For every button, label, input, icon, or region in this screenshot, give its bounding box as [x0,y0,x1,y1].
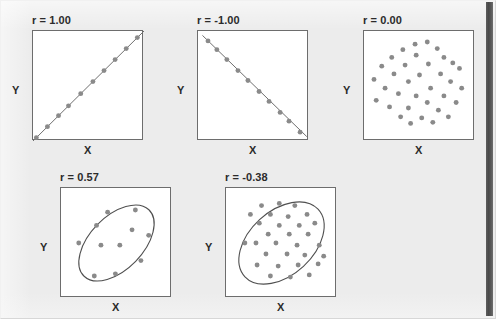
data-point [417,73,422,78]
data-point [264,252,269,257]
data-point [419,115,424,120]
data-point [246,78,251,83]
data-point [268,212,273,217]
data-point [430,120,435,125]
plot-area [197,30,308,140]
data-point [206,38,211,43]
data-point [277,223,282,228]
data-point [94,223,99,228]
data-point [302,253,307,258]
data-point [383,86,388,91]
x-axis-label: X [112,301,119,313]
data-point [396,91,401,96]
data-point [248,212,253,217]
data-point [56,113,61,118]
data-point [268,274,273,279]
data-point [316,261,321,266]
data-point [278,110,283,115]
x-axis-label: X [415,144,422,156]
plot-area [32,30,143,140]
panel-title: r = 0.57 [60,171,99,183]
data-point [408,121,413,126]
data-point [92,274,97,279]
data-point [292,203,297,208]
data-point [454,100,459,105]
data-point [374,98,379,103]
data-point [403,63,408,68]
data-point [254,241,259,246]
data-point [257,89,262,94]
panel-r-minus-1-00: r = -1.00 Y X [197,14,322,159]
x-axis-label: X [249,144,256,156]
data-point [90,79,95,84]
panel-title: r = 1.00 [32,14,71,26]
data-point [99,243,104,248]
panel-r-1-00: r = 1.00 Y X [32,14,157,159]
data-point [446,114,451,119]
data-point [236,68,241,73]
data-point [435,46,440,51]
data-point [457,66,462,71]
correlation-figure: r = 1.00 Y X r = -1.00 Y X r = 0.00 Y X … [0,0,496,319]
panel-r-minus-0-38: r = -0.38 Y X [225,171,350,316]
data-point [425,40,430,45]
plot-area [225,187,336,297]
data-point [406,79,411,84]
scatter-canvas-r-1-00 [33,31,144,141]
scatter-canvas-r-0-57 [61,188,172,298]
data-point [296,263,301,268]
data-point [287,232,292,237]
data-point [124,46,129,51]
data-point [450,60,455,65]
plot-area [60,187,171,297]
panel-r-0-57: r = 0.57 Y X [60,171,185,316]
data-point [286,214,291,219]
data-point [400,47,405,52]
data-point [276,264,281,269]
data-point [441,93,446,98]
data-point [459,86,464,91]
data-point [448,79,453,84]
panel-title: r = 0.00 [363,14,402,26]
data-point [428,86,433,91]
data-point [297,223,302,228]
panel-title: r = -1.00 [197,14,240,26]
data-point [138,258,143,263]
y-axis-label: Y [177,84,184,96]
data-point [306,232,311,237]
data-point [425,100,430,105]
data-point [255,263,260,268]
data-point [130,227,135,232]
data-point [214,47,219,52]
data-point [224,57,229,62]
data-point [34,135,39,140]
y-axis-label: Y [343,84,350,96]
plot-area [363,30,474,140]
data-point [295,243,300,248]
data-point [288,275,293,280]
data-point [267,99,272,104]
data-point [242,241,247,246]
data-point [274,241,279,246]
data-point [392,71,397,76]
data-point [113,271,118,276]
scatter-canvas-r-minus-0-38 [226,188,337,298]
data-point [133,208,138,213]
data-point [257,221,262,226]
data-point [146,233,151,238]
data-point [438,71,443,76]
data-point [321,254,326,259]
data-point [135,35,140,40]
data-point [413,42,418,47]
x-axis-label: X [277,301,284,313]
data-point [277,201,282,206]
y-axis-label: Y [205,241,212,253]
data-point [117,243,122,248]
data-point [105,210,110,215]
data-point [312,221,317,226]
data-point [389,55,394,60]
data-point [414,53,419,58]
data-point [426,62,431,67]
data-point [266,232,271,237]
data-point [66,103,71,108]
